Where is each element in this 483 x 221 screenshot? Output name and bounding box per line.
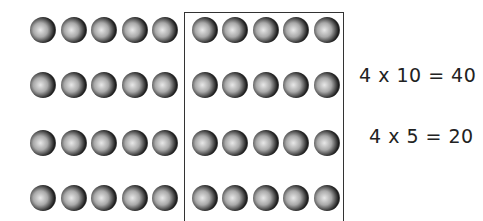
counter-icon — [192, 130, 218, 156]
counter-icon — [91, 17, 117, 43]
counter-icon — [222, 72, 248, 98]
counter-icon — [192, 185, 218, 211]
counter-icon — [152, 17, 178, 43]
counter-icon — [61, 185, 87, 211]
counter-icon — [222, 17, 248, 43]
counter-icon — [30, 72, 56, 98]
counter-icon — [30, 130, 56, 156]
counter-icon — [30, 185, 56, 211]
counter-row — [30, 16, 344, 44]
counter-icon — [122, 185, 148, 211]
equation-total: 4 x 10 = 40 — [359, 64, 476, 86]
counter-icon — [253, 130, 279, 156]
counter-icon — [253, 185, 279, 211]
counter-icon — [192, 72, 218, 98]
counter-icon — [152, 185, 178, 211]
counter-icon — [91, 185, 117, 211]
counter-row — [30, 184, 344, 212]
counter-icon — [122, 130, 148, 156]
counter-row — [30, 129, 344, 157]
counter-icon — [122, 17, 148, 43]
counter-icon — [30, 17, 56, 43]
counter-icon — [314, 130, 340, 156]
counter-icon — [283, 17, 309, 43]
counter-icon — [314, 17, 340, 43]
counter-icon — [222, 130, 248, 156]
counter-icon — [314, 72, 340, 98]
counter-icon — [61, 130, 87, 156]
counter-icon — [61, 17, 87, 43]
counter-icon — [122, 72, 148, 98]
counter-icon — [283, 185, 309, 211]
counter-icon — [91, 72, 117, 98]
counter-icon — [222, 185, 248, 211]
counter-icon — [152, 130, 178, 156]
counter-row — [30, 71, 344, 99]
equation-boxed: 4 x 5 = 20 — [369, 125, 474, 147]
counter-icon — [283, 72, 309, 98]
counter-icon — [192, 17, 218, 43]
counter-icon — [314, 185, 340, 211]
counter-icon — [61, 72, 87, 98]
counter-icon — [283, 130, 309, 156]
counter-icon — [152, 72, 178, 98]
counter-icon — [253, 17, 279, 43]
counter-icon — [253, 72, 279, 98]
counter-icon — [91, 130, 117, 156]
